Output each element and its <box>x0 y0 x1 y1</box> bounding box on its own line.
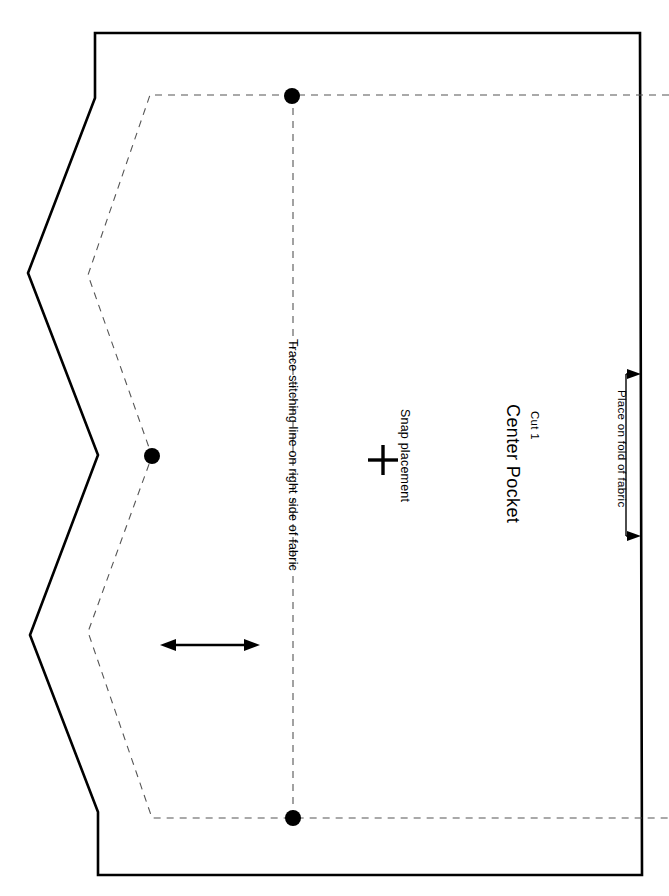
notch-dot-left <box>144 448 160 464</box>
snap-cross-icon <box>368 445 398 475</box>
cutting-line <box>28 33 642 875</box>
notch-dot-top <box>284 88 300 104</box>
piece-name-label: Center Pocket <box>504 404 522 523</box>
trace-stitching-label: Trace stitching line on right side of fa… <box>287 339 300 571</box>
place-on-fold-label: Place on fold of fabric <box>616 390 628 508</box>
notch-dot-bottom <box>285 810 301 826</box>
snap-placement-label: Snap placement <box>399 409 412 502</box>
pattern-sheet: Center Pocket Cut 1 Snap placement Trace… <box>0 0 669 896</box>
stitching-line <box>88 95 669 818</box>
cut-quantity-label: Cut 1 <box>529 411 541 440</box>
place-on-fold-bracket-icon <box>626 369 641 541</box>
pattern-drawing <box>0 0 669 896</box>
grainline-arrow-icon <box>160 639 260 651</box>
